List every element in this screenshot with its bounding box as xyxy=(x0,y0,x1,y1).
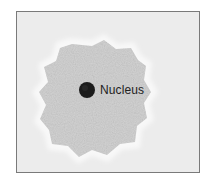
nucleus-label: Nucleus xyxy=(100,83,144,97)
